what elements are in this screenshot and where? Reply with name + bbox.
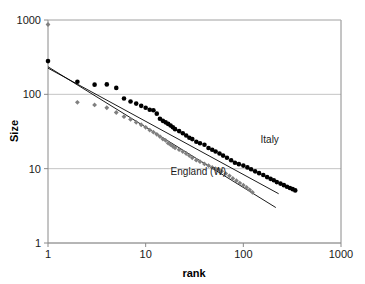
x-axis-tick-labels: 1101001000 — [45, 248, 353, 260]
data-point — [190, 137, 195, 142]
data-point — [202, 142, 207, 147]
plot-background — [48, 20, 341, 243]
y-tick-label-1000: 1000 — [17, 14, 41, 26]
data-point — [128, 99, 133, 104]
data-point — [134, 101, 139, 106]
y-tick-label-100: 100 — [23, 88, 41, 100]
data-point — [221, 153, 226, 158]
data-point — [233, 160, 238, 165]
data-point — [154, 111, 159, 116]
x-axis-ticks — [48, 243, 341, 247]
annotation-england-w: England (W) — [171, 166, 227, 177]
data-point — [46, 59, 51, 64]
y-axis-title: Size — [8, 120, 20, 142]
data-point — [75, 79, 80, 84]
data-point — [198, 141, 203, 146]
annotation-italy: Italy — [261, 134, 279, 145]
zipf-log-log-scatter-plot: ItalyEngland (W) 1101001000 1101001000 r… — [0, 0, 365, 284]
data-point — [114, 86, 119, 91]
chart-container: ItalyEngland (W) 1101001000 1101001000 r… — [0, 0, 365, 284]
y-tick-label-1: 1 — [35, 237, 41, 249]
data-point — [151, 108, 156, 113]
data-point — [213, 149, 218, 154]
data-point — [229, 158, 234, 163]
y-tick-label-10: 10 — [29, 163, 41, 175]
data-point — [241, 163, 246, 168]
data-point — [122, 96, 127, 101]
data-point — [143, 105, 148, 110]
data-point — [237, 162, 242, 167]
x-axis-title: rank — [182, 267, 206, 279]
x-tick-label-100: 100 — [234, 248, 252, 260]
data-point — [253, 169, 258, 174]
data-point — [257, 171, 262, 176]
x-tick-label-10: 10 — [140, 248, 152, 260]
y-axis-tick-labels: 1101001000 — [17, 14, 41, 249]
data-point — [92, 82, 97, 87]
data-point — [105, 82, 110, 87]
x-tick-label-1: 1 — [45, 248, 51, 260]
x-tick-label-1000: 1000 — [329, 248, 353, 260]
data-point — [293, 188, 298, 193]
y-axis-ticks — [44, 20, 48, 243]
data-point — [139, 104, 144, 109]
data-point — [225, 156, 230, 161]
data-point — [249, 167, 254, 172]
data-point — [173, 127, 178, 132]
